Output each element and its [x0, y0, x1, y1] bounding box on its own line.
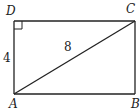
length-label-ad: 4 — [3, 51, 11, 65]
vertex-label-d: D — [5, 4, 16, 18]
right-angle-marker-icon — [14, 21, 22, 29]
rectangle-diagram: D C A B 4 8 — [0, 0, 140, 111]
vertex-label-b: B — [130, 97, 140, 111]
vertex-label-a: A — [8, 97, 18, 111]
length-label-ac: 8 — [64, 40, 72, 54]
vertex-label-c: C — [126, 2, 135, 16]
diagonal-ac — [14, 21, 135, 94]
